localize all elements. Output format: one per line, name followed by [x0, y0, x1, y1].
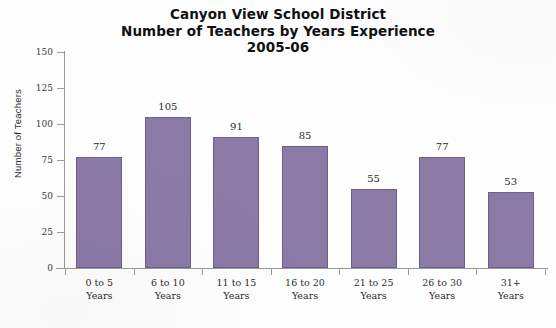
bar: [488, 192, 534, 268]
bar: [213, 137, 259, 268]
bar-chart-figure: Canyon View School District Number of Te…: [0, 0, 556, 328]
x-axis-line: [56, 268, 548, 269]
y-axis-tick-label: 50: [20, 191, 53, 201]
bar-value-label: 77: [69, 141, 129, 152]
y-axis-tick: [57, 52, 64, 53]
y-axis-tick: [57, 196, 64, 197]
y-axis-tick: [57, 88, 64, 89]
y-axis-tick-label: 75: [20, 155, 53, 165]
bar-value-label: 85: [275, 130, 335, 141]
y-axis-tick-label: 100: [20, 119, 53, 129]
y-axis-tick-label: 25: [20, 227, 53, 237]
chart-title: Canyon View School District Number of Te…: [0, 6, 556, 56]
bar-value-label: 53: [481, 176, 541, 187]
y-axis-tick-label: 125: [20, 83, 53, 93]
chart-title-line-1: Canyon View School District: [0, 6, 556, 23]
x-axis-tick: [271, 269, 272, 275]
y-axis-tick: [57, 232, 64, 233]
bar: [76, 157, 122, 268]
chart-title-line-2: Number of Teachers by Years Experience: [0, 23, 556, 40]
x-axis-tick: [134, 269, 135, 275]
x-axis-tick: [339, 269, 340, 275]
plot-area: [65, 52, 545, 268]
x-axis-label-line: 31+: [468, 276, 554, 289]
bar-value-label: 91: [206, 121, 266, 132]
bar-value-label: 55: [344, 173, 404, 184]
bar: [145, 117, 191, 268]
bar-value-label: 77: [412, 141, 472, 152]
x-axis-tick: [545, 269, 546, 275]
y-axis-tick: [57, 160, 64, 161]
x-axis-tick: [408, 269, 409, 275]
x-axis-tick: [65, 269, 66, 275]
x-axis-tick: [202, 269, 203, 275]
y-axis-tick: [57, 124, 64, 125]
y-axis-title: Number of Teachers: [12, 54, 23, 214]
x-axis-label-line: Years: [468, 289, 554, 302]
bar: [419, 157, 465, 268]
y-axis-tick: [57, 268, 64, 269]
bar-value-label: 105: [138, 101, 198, 112]
x-axis-category-label: 31+Years: [468, 276, 554, 302]
bar: [351, 189, 397, 268]
y-axis-tick-label: 150: [20, 47, 53, 57]
bar: [282, 146, 328, 268]
x-axis-tick: [476, 269, 477, 275]
y-axis-tick-label: 0: [20, 263, 53, 273]
